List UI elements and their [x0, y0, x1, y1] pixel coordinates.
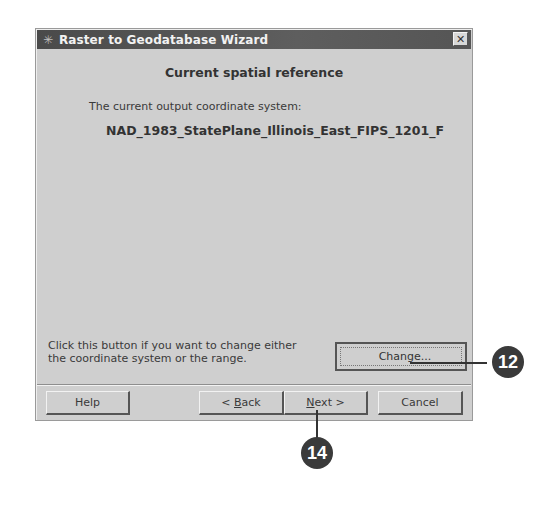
- window-title: Raster to Geodatabase Wizard: [59, 33, 268, 47]
- callout-14: 14: [301, 437, 333, 469]
- back-button[interactable]: < Back: [199, 391, 284, 415]
- wizard-dialog: ✳ Raster to Geodatabase Wizard ✕ Current…: [35, 28, 473, 421]
- title-bar[interactable]: ✳ Raster to Geodatabase Wizard ✕: [37, 30, 471, 49]
- wizard-icon: ✳: [41, 33, 55, 47]
- cancel-button[interactable]: Cancel: [378, 391, 463, 415]
- close-button[interactable]: ✕: [453, 32, 468, 46]
- help-label: Help: [75, 396, 100, 409]
- next-accel: N: [306, 396, 314, 409]
- hint-line-2: the coordinate system or the range.: [48, 352, 328, 365]
- next-button[interactable]: Next >: [284, 391, 368, 415]
- help-button[interactable]: Help: [46, 391, 130, 415]
- coordinate-system-value: NAD_1983_StatePlane_Illinois_East_FIPS_1…: [106, 123, 444, 138]
- coordinate-system-label: The current output coordinate system:: [89, 100, 302, 113]
- back-rest: ack: [242, 396, 261, 409]
- callout-line-next: [316, 410, 318, 438]
- page-heading: Current spatial reference: [36, 65, 472, 80]
- callout-line-change: [410, 362, 487, 364]
- change-hint-text: Click this button if you want to change …: [48, 339, 328, 365]
- hint-line-1: Click this button if you want to change …: [48, 339, 328, 352]
- change-button[interactable]: Change...: [335, 342, 467, 371]
- back-accel: B: [234, 396, 242, 409]
- back-prefix: <: [221, 396, 234, 409]
- separator: [37, 384, 471, 386]
- callout-12: 12: [492, 346, 524, 378]
- cancel-label: Cancel: [401, 396, 438, 409]
- next-rest: ext >: [315, 396, 345, 409]
